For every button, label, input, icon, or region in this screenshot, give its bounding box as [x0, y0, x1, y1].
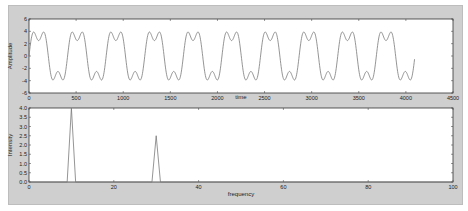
y-tick-label: -6: [22, 90, 27, 96]
intensity-axis-label: Intensity: [7, 134, 13, 156]
y-tick-label: 2: [24, 41, 27, 47]
y-tick-label: 1.0: [19, 161, 27, 167]
time-domain-axes: 050010001500200025003000350040004500-6-4…: [22, 16, 459, 101]
x-tick-label: 2500: [258, 95, 270, 101]
plot-area: [29, 108, 453, 182]
y-tick-label: -2: [22, 65, 27, 71]
y-tick-label: 2.5: [19, 133, 27, 139]
time-axis-label: time: [235, 94, 247, 100]
y-tick-label: 1.5: [19, 151, 27, 157]
frequency-domain-axes: 0204060801000.00.51.01.52.02.53.03.54.0: [19, 105, 457, 190]
x-tick-label: 3000: [306, 95, 318, 101]
x-tick-label: 4000: [400, 95, 412, 101]
y-tick-label: 4: [24, 28, 27, 34]
x-tick-label: 3500: [353, 95, 365, 101]
chart-canvas: 050010001500200025003000350040004500-6-4…: [0, 0, 468, 211]
x-tick-label: 100: [448, 184, 457, 190]
y-tick-label: -4: [22, 78, 27, 84]
x-tick-label: 60: [280, 184, 286, 190]
y-tick-label: 4.0: [19, 105, 27, 111]
y-tick-label: 0.5: [19, 170, 27, 176]
x-tick-label: 0: [27, 95, 30, 101]
y-tick-label: 3.0: [19, 124, 27, 130]
x-tick-label: 1500: [164, 95, 176, 101]
y-tick-label: 3.5: [19, 114, 27, 120]
x-tick-label: 1000: [117, 95, 129, 101]
y-tick-label: 6: [24, 16, 27, 22]
x-tick-label: 40: [196, 184, 202, 190]
y-tick-label: 0.0: [19, 179, 27, 185]
amplitude-axis-label: Amplitude: [7, 42, 13, 69]
x-tick-label: 80: [365, 184, 371, 190]
frequency-axis-label: frequency: [228, 191, 254, 197]
y-tick-label: 0: [24, 53, 27, 59]
x-tick-label: 0: [27, 184, 30, 190]
x-tick-label: 4500: [447, 95, 459, 101]
y-tick-label: 2.0: [19, 142, 27, 148]
x-tick-label: 20: [111, 184, 117, 190]
x-tick-label: 500: [72, 95, 81, 101]
x-tick-label: 2000: [211, 95, 223, 101]
